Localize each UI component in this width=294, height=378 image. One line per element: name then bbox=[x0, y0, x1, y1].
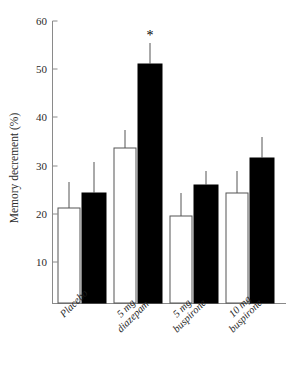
y-tick-label-40: 40 bbox=[36, 111, 48, 123]
bar-diazepam5-open bbox=[114, 148, 136, 303]
bar-buspirone10-filled bbox=[250, 158, 274, 303]
y-tick-label-50: 50 bbox=[36, 63, 48, 75]
bar-chart-svg: 60 50 40 30 20 10 Memory decrement (%) * bbox=[0, 0, 294, 378]
bar-buspirone10-open bbox=[226, 193, 248, 303]
bar-placebo-filled bbox=[82, 193, 106, 303]
y-tick-label-60: 60 bbox=[36, 15, 48, 27]
y-tick-label-20: 20 bbox=[36, 208, 48, 220]
bar-buspirone5-open bbox=[170, 216, 192, 303]
y-axis-title: Memory decrement (%) bbox=[8, 113, 21, 224]
bar-placebo-open bbox=[58, 208, 80, 303]
y-tick-label-30: 30 bbox=[36, 160, 48, 172]
significance-marker-diazepam5: * bbox=[147, 28, 154, 43]
chart-figure: 60 50 40 30 20 10 Memory decrement (%) * bbox=[0, 0, 294, 378]
bar-diazepam5-filled bbox=[138, 64, 162, 303]
y-tick-label-10: 10 bbox=[36, 256, 48, 268]
bar-buspirone5-filled bbox=[194, 185, 218, 303]
